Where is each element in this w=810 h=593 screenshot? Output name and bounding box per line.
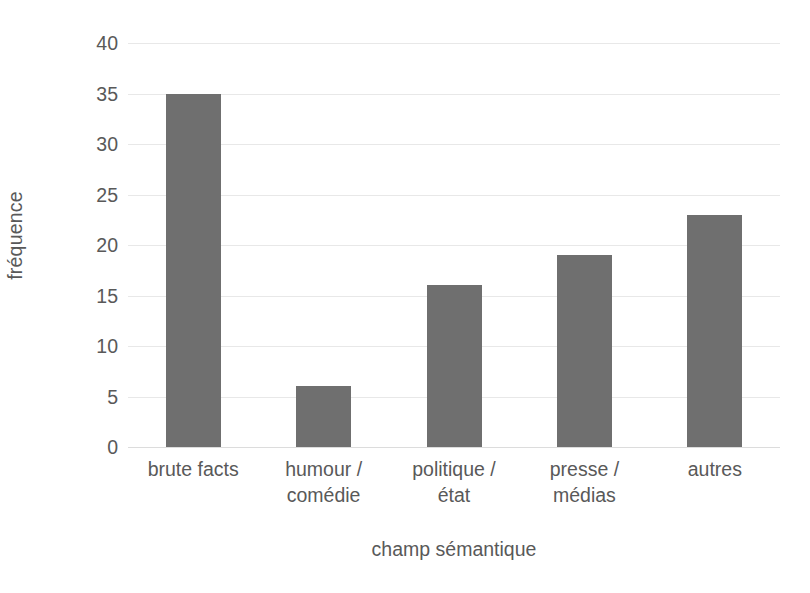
x-axis-tick-label: autres	[650, 456, 780, 516]
x-axis-title-label: champ sémantique	[372, 538, 537, 560]
x-axis-tick-label-line: presse /	[550, 458, 619, 480]
x-axis-tick-label-line: autres	[688, 458, 742, 480]
bar-slot	[258, 43, 388, 447]
bar[interactable]	[166, 94, 221, 448]
bar[interactable]	[687, 215, 742, 447]
x-axis-tick-label: politique /état	[389, 456, 519, 516]
bar-slot	[128, 43, 258, 447]
y-axis-title-label: fréquence	[4, 191, 27, 280]
y-axis-title: fréquence	[0, 0, 60, 470]
bar-slot	[519, 43, 649, 447]
x-axis-tick-labels: brute factshumour /comédiepolitique /éta…	[128, 456, 780, 516]
plot-area	[128, 43, 780, 447]
axis-baseline	[128, 447, 780, 448]
bar[interactable]	[296, 386, 351, 447]
bars-layer	[128, 43, 780, 447]
y-axis-tick-labels: 0510152025303540	[62, 43, 118, 447]
x-axis-tick-label-line: politique /	[412, 458, 495, 480]
bar-slot	[650, 43, 780, 447]
y-axis-tick-label: 40	[96, 32, 118, 55]
x-axis-tick-label: brute facts	[128, 456, 258, 516]
x-axis-tick-label: humour /comédie	[258, 456, 388, 516]
y-axis-tick-label: 15	[96, 284, 118, 307]
y-axis-tick-label: 20	[96, 234, 118, 257]
bar[interactable]	[427, 285, 482, 447]
bar[interactable]	[557, 255, 612, 447]
x-axis-tick-label-line: brute facts	[148, 458, 239, 480]
y-axis-tick-label: 0	[107, 436, 118, 459]
y-axis-tick-label: 10	[96, 335, 118, 358]
y-axis-tick-label: 35	[96, 82, 118, 105]
x-axis-title: champ sémantique	[128, 538, 780, 561]
x-axis-tick-label-line: médias	[519, 482, 649, 508]
bar-slot	[389, 43, 519, 447]
x-axis-tick-label-line: humour /	[285, 458, 362, 480]
x-axis-tick-label: presse /médias	[519, 456, 649, 516]
y-axis-tick-label: 25	[96, 183, 118, 206]
x-axis-tick-label-line: comédie	[258, 482, 388, 508]
y-axis-tick-label: 30	[96, 133, 118, 156]
y-axis-tick-label: 5	[107, 385, 118, 408]
x-axis-tick-label-line: état	[389, 482, 519, 508]
bar-chart-figure: fréquence 0510152025303540 brute factshu…	[0, 0, 810, 593]
